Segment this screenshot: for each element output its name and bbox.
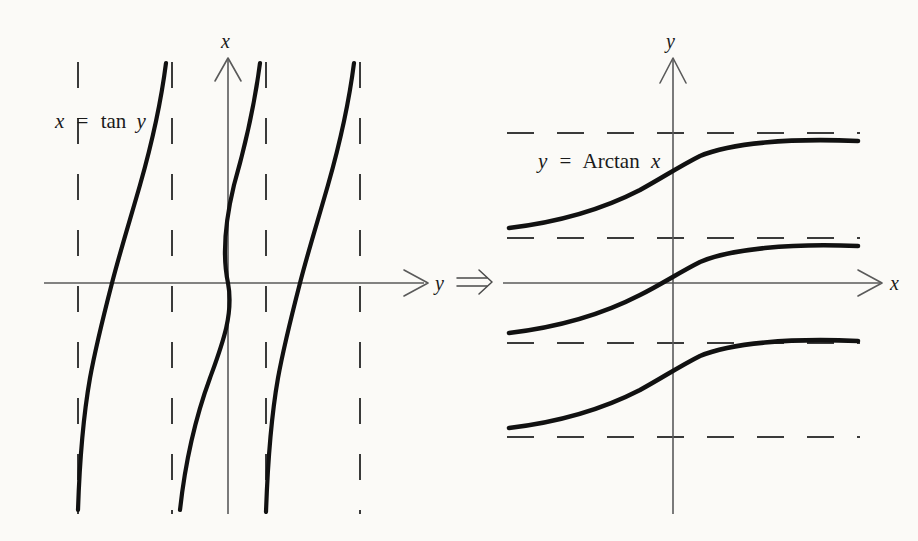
right-panel-group: y = Arctan x y x [503,30,899,514]
left-panel-equation-label: x = tan y [54,109,147,133]
left-vertical-axis-label: x [220,30,230,52]
right-horizontal-axis-label: x [889,272,899,294]
right-label-equals: = [560,149,572,173]
tan-branch-right [266,63,354,512]
right-asymptotes [507,133,860,437]
left-horizontal-axis-label: y [433,272,444,295]
right-label-argument: x [650,149,661,173]
left-label-function: tan [101,109,127,133]
right-vertical-axis-label: y [664,30,675,53]
arctan-branch-lower [509,340,858,428]
right-curves [509,140,858,428]
right-panel-equation-label: y = Arctan x [536,149,661,173]
right-label-lhs: y [536,149,548,173]
tan-branch-middle [180,63,260,510]
left-label-equals: = [77,109,89,133]
right-axes [503,58,882,514]
left-panel-group: x = tan y x y [44,30,444,514]
arctan-branch-principal [509,245,858,333]
connector-arrowhead [479,270,492,294]
left-label-argument: y [135,109,147,133]
figure-container: x = tan y x y [0,0,918,541]
implies-connector [457,270,492,294]
right-label-function: Arctan [583,149,641,173]
left-label-lhs: x [54,109,65,133]
figure-svg: x = tan y x y [0,0,918,541]
